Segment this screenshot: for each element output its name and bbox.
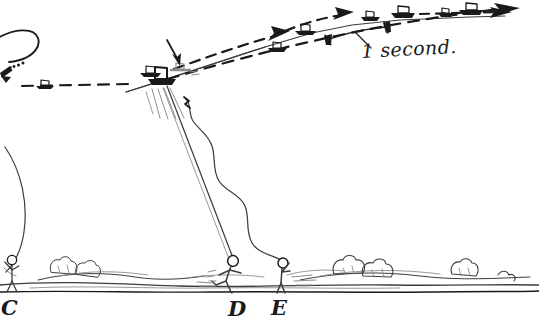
ground-marker-c: C (1, 295, 18, 320)
ground-marker-d: D (228, 296, 246, 321)
shrub-cluster-5 (76, 261, 101, 277)
ground-marker-e: E (271, 295, 287, 320)
taut-kite-line (163, 86, 233, 259)
ground-line (0, 283, 539, 293)
scene-layer (0, 0, 539, 324)
kite-launch-diagram: 1 second. C D E (0, 0, 539, 324)
slack-kite-line (184, 97, 281, 260)
shrub-cluster-4 (50, 257, 77, 274)
shrub-cluster-2 (362, 259, 393, 277)
figure-bystander (5, 255, 19, 292)
shrub-cluster-3 (451, 259, 478, 276)
shrub-far-right (498, 271, 515, 281)
